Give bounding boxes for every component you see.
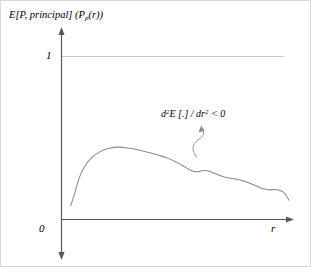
y-axis-arrow-up-icon [58,27,64,35]
chart-canvas [1,1,311,267]
y-tick-label-1: 1 [46,50,52,61]
annotation-leader-line [193,129,204,157]
chart-figure: E[P, principal] (Pp(r)) 1 0 r d2E [.] / … [0,0,311,267]
x-axis-arrow-right-icon [286,216,294,222]
x-axis-title: r [271,223,275,234]
curvature-annotation: d2E [.] / dr2 < 0 [161,109,225,119]
y-axis-title-fn-close: (r)) [89,9,104,20]
data-series-curve [71,147,289,206]
y-axis-title-main: E[P, principal] [9,9,72,20]
origin-label-0: 0 [39,223,45,234]
annotation-inequality: < 0 [208,108,225,119]
annotation-body: E [.] / d [169,108,201,119]
y-axis-title-fn-open: (P [75,9,85,20]
annotation-arrowhead-icon [198,126,204,133]
y-axis-arrow-down-icon [58,252,64,260]
y-axis-title: E[P, principal] (Pp(r)) [9,10,103,22]
